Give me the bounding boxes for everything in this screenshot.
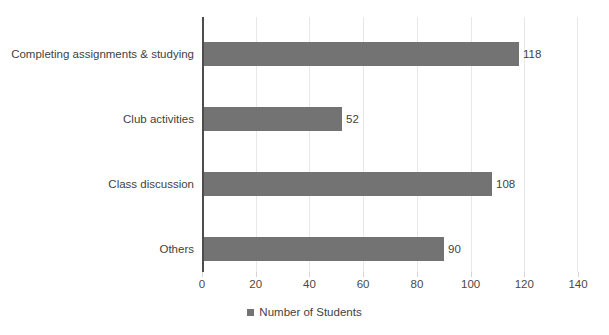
plot-area [202,17,578,272]
data-label-club-activities: 52 [346,107,359,131]
bar-chart: 0 20 40 60 80 100 120 140 Completing ass… [0,0,609,335]
axis-tick [202,272,203,277]
data-label-class-discussion: 108 [496,172,515,196]
axis-tick [417,272,418,277]
x-axis-tick-label: 60 [357,278,370,290]
chart-legend: Number of Students [0,306,609,318]
bar-club-activities[interactable] [202,107,342,131]
category-label-completing-assignments-studying: Completing assignments & studying [6,42,194,66]
bar-class-discussion[interactable] [202,172,492,196]
x-axis-tick-label: 40 [303,278,316,290]
x-axis-tick-label: 140 [568,278,587,290]
gridline [577,17,578,272]
axis-tick [309,272,310,277]
legend-swatch-icon [247,309,254,316]
category-label-class-discussion: Class discussion [6,172,194,196]
x-axis-tick-label: 120 [515,278,534,290]
axis-tick [524,272,525,277]
x-axis-tick-label: 80 [410,278,423,290]
axis-tick [363,272,364,277]
category-label-club-activities: Club activities [6,107,194,131]
x-axis-tick-label: 20 [249,278,262,290]
category-label-others: Others [6,237,194,261]
data-label-completing-assignments-studying: 118 [523,42,541,66]
x-axis-tick-label: 100 [461,278,480,290]
legend-label-number-of-students: Number of Students [259,306,361,318]
axis-tick [256,272,257,277]
data-label-others: 90 [448,237,461,261]
axis-tick [578,272,579,277]
x-axis-tick-label: 0 [199,278,205,290]
bar-others[interactable] [202,237,444,261]
axis-tick [471,272,472,277]
bar-completing-assignments-studying[interactable] [202,42,519,66]
value-axis-line [202,17,204,272]
